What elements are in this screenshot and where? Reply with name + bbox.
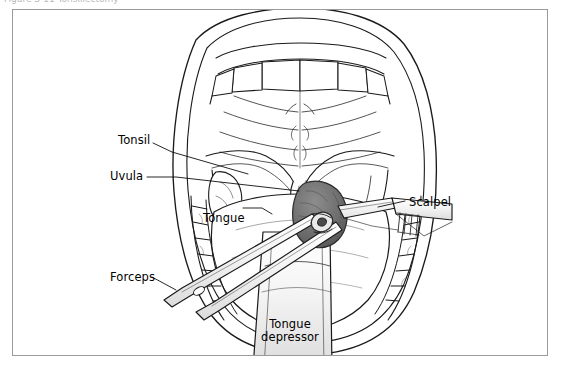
leader-tonsil (153, 143, 248, 174)
label-tongue: Tongue (203, 212, 245, 225)
leader-forceps (152, 277, 176, 290)
figure-stage: Figure 3-11 Tonsillectomy (0, 0, 562, 370)
hard-palate (220, 92, 380, 168)
label-uvula: Uvula (110, 170, 143, 183)
label-forceps: Forceps (110, 271, 155, 284)
tonsillectomy-illustration (0, 0, 562, 370)
label-scalpel: Scalpel (409, 196, 451, 209)
label-tonsil: Tonsil (118, 134, 150, 147)
label-tongue-depressor: Tongue depressor (253, 318, 327, 344)
